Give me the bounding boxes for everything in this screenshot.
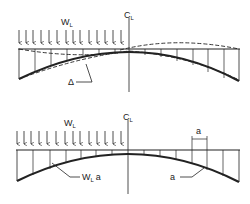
bottom-diagram: WL CL [16,112,240,194]
svg-text:a: a [170,172,175,182]
pressure-indicator: WLa [52,163,101,183]
top-load-label: WL [61,17,74,28]
svg-text:CL: CL [123,112,134,123]
svg-text:a: a [196,126,201,136]
svg-text:WLa: WLa [82,172,101,183]
deflection-indicator: Δ [68,64,92,87]
beam-diagram: WL CL [0,0,250,204]
bottom-load-arrows [17,131,121,144]
bottom-load-label: WL [64,118,77,129]
top-diagram: WL CL [18,10,240,92]
svg-text:CL: CL [124,10,135,21]
svg-text:Δ: Δ [68,77,74,87]
gap-dimension: a [192,126,207,150]
top-load-arrows [19,30,121,43]
curve-label-indicator: a [170,168,204,182]
